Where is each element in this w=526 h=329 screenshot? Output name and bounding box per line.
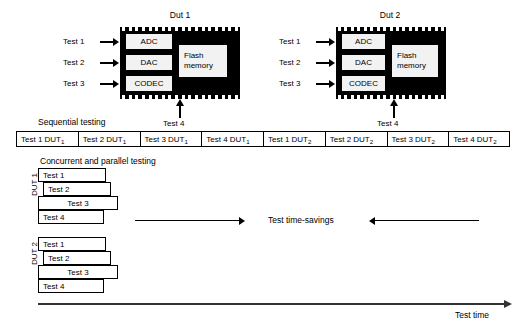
time-savings-arrow-left-icon xyxy=(374,220,479,221)
sequential-cell-dut: 2 xyxy=(493,138,496,145)
sequential-cell-test: Test 3 DUT xyxy=(392,135,432,144)
dut-1-flash-line-2: memory xyxy=(184,61,213,71)
concurrent-testing-caption: Concurrent and parallel testing xyxy=(40,156,156,166)
dut-1-title: Dut 1 xyxy=(120,10,240,20)
time-savings-arrow-right-icon xyxy=(135,220,240,221)
sequential-cell-dut: 1 xyxy=(246,138,249,145)
sequential-cell: Test 3 DUT1 xyxy=(141,132,203,146)
sequential-cell-dut: 1 xyxy=(61,138,64,145)
dut-1-block-dac: DAC xyxy=(125,54,173,71)
dut-1-block-flash-memory: Flash memory xyxy=(178,44,228,78)
sequential-cell: Test 3 DUT2 xyxy=(388,132,450,146)
sequential-cell-test: Test 2 DUT xyxy=(330,135,370,144)
test-time-axis xyxy=(38,303,506,305)
sequential-cell-test: Test 3 DUT xyxy=(145,135,185,144)
sequential-cell-dut: 2 xyxy=(432,138,435,145)
dut-1-test-2-arrow-icon xyxy=(100,62,114,64)
sequential-cell-test: Test 4 DUT xyxy=(453,135,493,144)
test-time-axis-label: Test time xyxy=(455,310,489,320)
sequential-cell-dut: 1 xyxy=(123,138,126,145)
dut-2-test-2-arrow-icon xyxy=(316,62,330,64)
dut-2-block-flash-memory: Flash memory xyxy=(391,44,439,78)
dut-1-bar-test-1: Test 1 xyxy=(38,168,106,182)
sequential-cell-dut: 2 xyxy=(370,138,373,145)
sequential-cell-dut: 2 xyxy=(308,138,311,145)
dut-2-test-1-arrow-icon xyxy=(316,41,330,43)
dut-2-block-adc: ADC xyxy=(341,33,386,50)
dut-1-test-4-arrow-icon xyxy=(179,105,181,118)
sequential-cell-test: Test 1 DUT xyxy=(21,135,61,144)
dut-2-top-pins xyxy=(338,27,444,31)
sequential-cell-test: Test 2 DUT xyxy=(83,135,123,144)
dut-2-flash-line-1: Flash xyxy=(397,51,417,61)
sequential-cell: Test 1 DUT2 xyxy=(264,132,326,146)
sequential-cell-dut: 1 xyxy=(185,138,188,145)
dut-2-test-2-label: Test 2 xyxy=(279,58,300,67)
sequential-cell-test: Test 1 DUT xyxy=(268,135,308,144)
dut-1-block-adc: ADC xyxy=(125,33,173,50)
diagram-canvas: Dut 1 ADC DAC CODEC Flash xyxy=(0,0,526,329)
dut-1-block-codec: CODEC xyxy=(125,75,173,92)
sequential-cell: Test 4 DUT2 xyxy=(449,132,509,146)
dut-2-bar-test-1: Test 1 xyxy=(38,237,106,251)
dut-1-bar-test-3: Test 3 xyxy=(38,196,118,210)
sequential-cell: Test 2 DUT1 xyxy=(79,132,141,146)
sequential-cell: Test 1 DUT1 xyxy=(17,132,79,146)
dut-1-test-1-arrow-icon xyxy=(100,41,114,43)
dut-1-top-pins xyxy=(122,27,238,31)
dut-1-test-3-label: Test 3 xyxy=(63,79,84,88)
dut-1-test-1-label: Test 1 xyxy=(63,37,84,46)
dut-1-bar-test-2: Test 2 xyxy=(43,182,111,196)
time-savings-label: Test time-savings xyxy=(268,215,334,225)
dut-2-bar-test-4: Test 4 xyxy=(38,279,104,293)
dut-1-test-3-arrow-icon xyxy=(100,83,114,85)
dut-2-test-3-arrow-icon xyxy=(316,83,330,85)
dut-2-title: Dut 2 xyxy=(335,10,445,20)
sequential-cell: Test 4 DUT1 xyxy=(202,132,264,146)
dut-2-block-dac: DAC xyxy=(341,54,386,71)
dut-2-block-codec: CODEC xyxy=(341,75,386,92)
sequential-testing-caption: Sequential testing xyxy=(38,117,106,127)
dut-2-test-4-label: Test 4 xyxy=(377,119,398,128)
dut-2-test-1-label: Test 1 xyxy=(279,37,300,46)
dut-1-test-2-label: Test 2 xyxy=(63,58,84,67)
dut-1-bar-test-4: Test 4 xyxy=(38,210,104,224)
dut-2-bar-test-2: Test 2 xyxy=(43,251,111,265)
sequential-cell: Test 2 DUT2 xyxy=(326,132,388,146)
dut-2-test-3-label: Test 3 xyxy=(279,79,300,88)
sequential-cell-test: Test 4 DUT xyxy=(206,135,246,144)
dut-1-flash-line-1: Flash xyxy=(184,51,204,61)
sequential-timeline: Test 1 DUT1 Test 2 DUT1 Test 3 DUT1 Test… xyxy=(16,131,510,147)
dut-2-bar-test-3: Test 3 xyxy=(38,265,118,279)
dut-2-test-4-arrow-icon xyxy=(393,105,395,118)
dut-1-test-4-label: Test 4 xyxy=(163,119,184,128)
dut-2-flash-line-2: memory xyxy=(397,61,426,71)
